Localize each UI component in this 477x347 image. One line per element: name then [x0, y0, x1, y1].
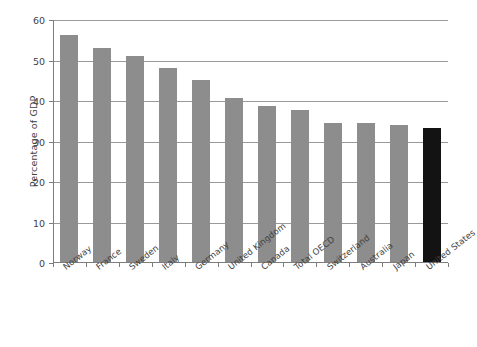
bar: [423, 128, 441, 263]
y-tick-label: 0: [5, 258, 45, 269]
y-tick-mark: [49, 223, 53, 224]
y-tick-label-group: 0102030405060: [4, 20, 45, 263]
y-tick-mark: [49, 101, 53, 102]
bar: [192, 80, 210, 263]
bar: [126, 56, 144, 263]
bar: [390, 125, 408, 263]
y-tick-mark: [49, 61, 53, 62]
gridline: [53, 61, 448, 62]
bar: [225, 98, 243, 263]
bar: [291, 110, 309, 263]
y-tick-label: 40: [5, 96, 45, 107]
x-tick-label-group: NorwayFranceSwedenItalyGermanyUnited Kin…: [53, 264, 471, 347]
y-axis-spine: [53, 20, 54, 263]
y-tick-label: 30: [5, 136, 45, 147]
y-tick-mark: [49, 20, 53, 21]
y-tick-mark: [49, 182, 53, 183]
y-tick-label: 60: [5, 15, 45, 26]
bar: [60, 35, 78, 263]
y-tick-mark: [49, 142, 53, 143]
plot-area: 0102030405060: [53, 20, 448, 263]
gridline: [53, 20, 448, 21]
y-tick-label: 10: [5, 217, 45, 228]
y-tick-label: 20: [5, 177, 45, 188]
gridline: [53, 101, 448, 102]
bar: [159, 68, 177, 263]
y-tick-label: 50: [5, 55, 45, 66]
bar: [93, 48, 111, 263]
